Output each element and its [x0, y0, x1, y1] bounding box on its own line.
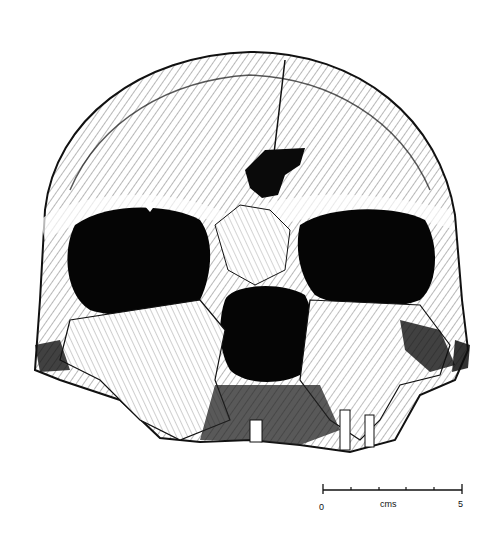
- left-orbit: [67, 208, 210, 316]
- right-orbit: [298, 209, 435, 307]
- scale-bar: 0 cms 5: [316, 480, 476, 520]
- scale-start-label: 0: [319, 502, 324, 512]
- scale-ruler: [316, 480, 476, 500]
- nasal-aperture: [220, 286, 313, 382]
- scale-unit-label: cms: [380, 499, 397, 509]
- skull-illustration: [0, 0, 496, 550]
- scale-end-label: 5: [458, 499, 463, 509]
